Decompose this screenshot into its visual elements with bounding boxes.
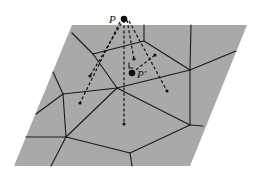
site-point [165, 89, 168, 92]
label-p-prime: P' [136, 68, 147, 80]
site-point [132, 57, 135, 60]
label-p: P [108, 13, 116, 25]
site-point [78, 101, 81, 104]
site-point [122, 122, 125, 125]
point-p-prime [129, 70, 136, 77]
site-point [153, 53, 156, 56]
voronoi-diagram: P P' [0, 0, 263, 182]
parallelogram-plane [14, 25, 247, 166]
point-p [121, 16, 128, 23]
site-point [88, 74, 91, 77]
